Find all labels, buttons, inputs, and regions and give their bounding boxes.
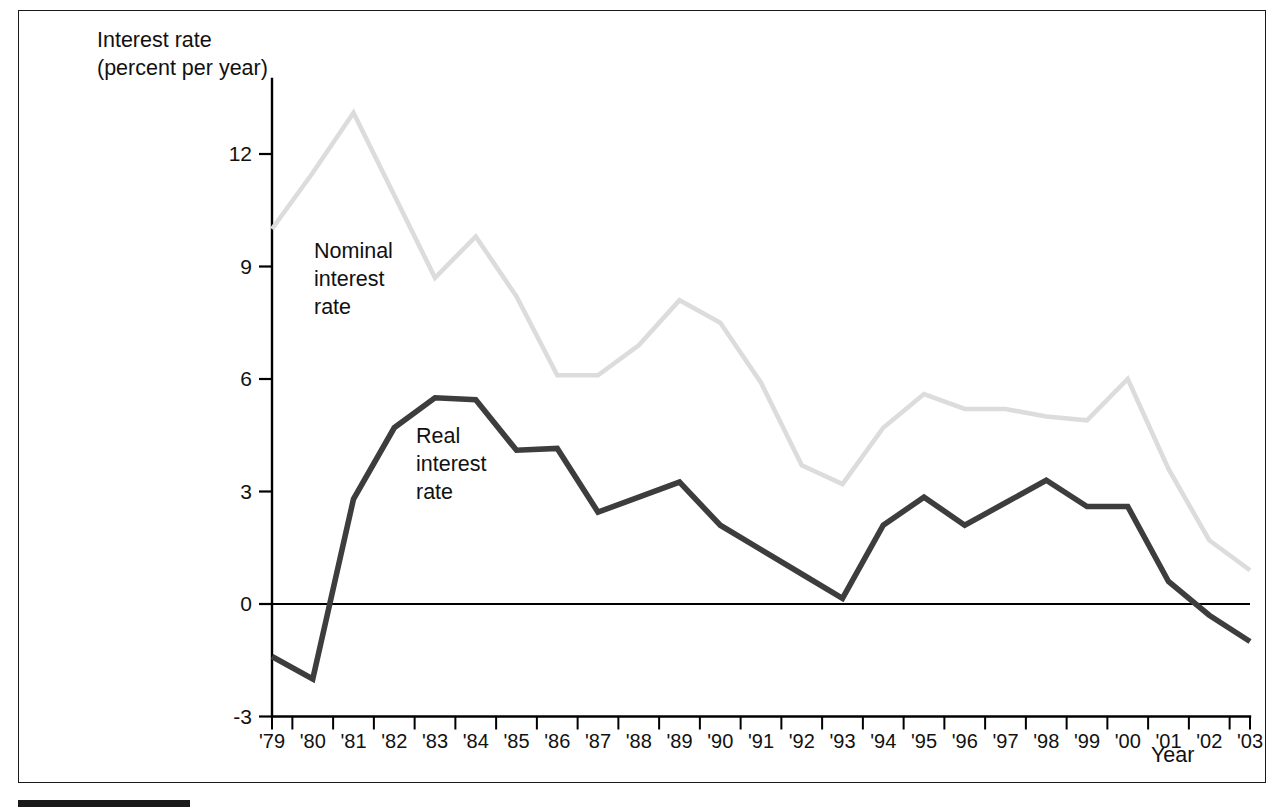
y-axis-tick-label: 3 bbox=[240, 480, 252, 503]
caption-rule bbox=[18, 800, 190, 807]
x-axis-title: Year bbox=[1151, 742, 1194, 770]
figure-page: 129630-3'79'80'81'82'83'84'85'86'87'88'8… bbox=[0, 0, 1287, 812]
x-axis-tick-label: '85 bbox=[503, 730, 529, 752]
y-axis-title: Interest rate(percent per year) bbox=[97, 27, 268, 83]
y-axis-tick-label: 9 bbox=[240, 255, 252, 278]
x-axis-tick-label: '86 bbox=[544, 730, 570, 752]
x-axis-tick-label: '96 bbox=[952, 730, 978, 752]
x-axis-tick-label: '95 bbox=[911, 730, 937, 752]
interest-rate-line-chart: 129630-3'79'80'81'82'83'84'85'86'87'88'8… bbox=[0, 0, 1287, 812]
real-label-line3: rate bbox=[416, 480, 453, 504]
nominal-label-line2: interest bbox=[314, 267, 385, 291]
x-axis-tick-label: '99 bbox=[1074, 730, 1100, 752]
nominal-label-line1: Nominal bbox=[314, 239, 393, 263]
x-axis-tick-label: '83 bbox=[422, 730, 448, 752]
y-axis-tick-label: 0 bbox=[240, 592, 252, 615]
x-axis-tick-label: '89 bbox=[666, 730, 692, 752]
x-axis-tick-label: '80 bbox=[300, 730, 326, 752]
y-axis-title-line2: (percent per year) bbox=[97, 56, 268, 80]
x-axis-tick-label: '97 bbox=[992, 730, 1018, 752]
x-axis-tick-label: '98 bbox=[1033, 730, 1059, 752]
x-axis-tick-label: '81 bbox=[340, 730, 366, 752]
x-axis-tick-label: '02 bbox=[1196, 730, 1222, 752]
x-axis-tick-label: '79 bbox=[259, 730, 285, 752]
real-label-line2: interest bbox=[416, 452, 487, 476]
x-axis-tick-label: '91 bbox=[748, 730, 774, 752]
y-axis-tick-label: 12 bbox=[229, 142, 252, 165]
real-label-line1: Real bbox=[416, 424, 460, 448]
x-axis-tick-label: '90 bbox=[707, 730, 733, 752]
real-series-label: Realinterestrate bbox=[416, 423, 487, 507]
x-axis-tick-label: '03 bbox=[1237, 730, 1263, 752]
y-axis-tick-label: 6 bbox=[240, 367, 252, 390]
x-axis-tick-label: '92 bbox=[789, 730, 815, 752]
nominal-label-line3: rate bbox=[314, 295, 351, 319]
x-axis-tick-label: '88 bbox=[626, 730, 652, 752]
x-axis-tick-label: '84 bbox=[463, 730, 489, 752]
x-axis-tick-label: '87 bbox=[585, 730, 611, 752]
chart-series-group bbox=[272, 113, 1250, 679]
x-axis-tick-label: '82 bbox=[381, 730, 407, 752]
x-axis-tick-label: '94 bbox=[870, 730, 896, 752]
x-axis-tick-label: '00 bbox=[1115, 730, 1141, 752]
nominal-series-label: Nominalinterestrate bbox=[314, 238, 393, 322]
x-axis-tick-label: '93 bbox=[829, 730, 855, 752]
y-axis-title-line1: Interest rate bbox=[97, 28, 212, 52]
y-axis-tick-label: -3 bbox=[233, 705, 252, 728]
